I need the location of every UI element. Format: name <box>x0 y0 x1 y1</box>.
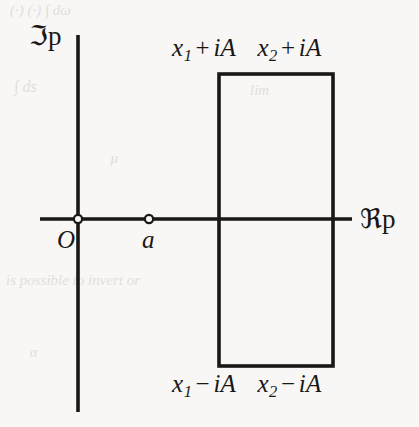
fraktur-real-symbol: ℜ <box>360 204 382 234</box>
bottom-right-imaginary: iA <box>299 370 322 397</box>
top-right-operator: + <box>278 34 299 61</box>
point-a-label: a <box>142 226 155 254</box>
complex-plane-figure: (·) (·) ∫ dω ∫ ds lim µ is possible to i… <box>0 0 419 427</box>
bottom-left-subscript: 1 <box>183 382 192 401</box>
point-a-marker <box>145 215 153 223</box>
imaginary-axis-label: ℑp <box>29 20 62 52</box>
top-left-corner-label: x1+iA <box>172 34 236 61</box>
bottom-left-base: x <box>172 370 183 397</box>
origin-point-marker <box>74 215 82 223</box>
bottom-left-corner-label: x1−iA <box>172 370 236 397</box>
top-left-operator: + <box>192 34 213 61</box>
fraktur-imaginary-symbol: ℑ <box>29 21 48 51</box>
top-left-imaginary: iA <box>213 34 236 61</box>
origin-label: O <box>57 226 75 254</box>
imaginary-axis-variable: p <box>48 21 62 51</box>
top-right-base: x <box>257 34 268 61</box>
top-right-corner-label: x2+iA <box>257 34 321 61</box>
label-separator <box>236 34 257 61</box>
top-left-base: x <box>172 34 183 61</box>
top-right-subscript: 2 <box>269 46 278 65</box>
bottom-left-operator: − <box>192 370 213 397</box>
bottom-corner-labels: x1−iA x2−iA <box>172 370 321 402</box>
bottom-left-imaginary: iA <box>213 370 236 397</box>
top-right-imaginary: iA <box>299 34 322 61</box>
bottom-right-subscript: 2 <box>269 382 278 401</box>
bottom-right-operator: − <box>278 370 299 397</box>
bottom-right-corner-label: x2−iA <box>257 370 321 397</box>
real-axis-label: ℜp <box>360 203 396 235</box>
label-separator <box>236 370 257 397</box>
top-left-subscript: 1 <box>183 46 192 65</box>
real-axis-variable: p <box>382 204 396 234</box>
top-corner-labels: x1+iA x2+iA <box>172 34 321 66</box>
bottom-right-base: x <box>257 370 268 397</box>
